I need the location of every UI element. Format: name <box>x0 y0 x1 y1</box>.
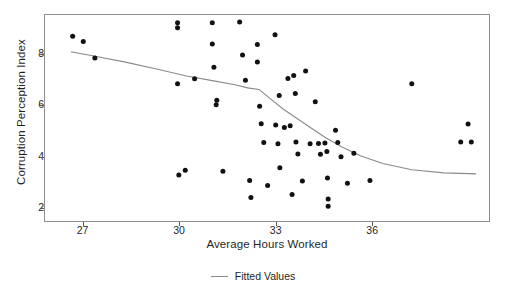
scatter-point <box>295 152 300 157</box>
x-tick-mark <box>372 222 373 226</box>
scatter-point <box>81 39 86 44</box>
scatter-point <box>313 99 318 104</box>
scatter-point <box>175 25 180 30</box>
scatter-point <box>469 139 474 144</box>
x-tick-mark <box>83 222 84 226</box>
scatter-point <box>257 104 262 109</box>
scatter-point <box>322 140 327 145</box>
scatter-point <box>261 140 266 145</box>
scatter-point <box>409 81 414 86</box>
scatter-point <box>277 165 282 170</box>
scatter-points-group <box>70 19 474 208</box>
scatter-point <box>248 195 253 200</box>
scatter-point <box>255 60 260 65</box>
scatter-point <box>70 34 75 39</box>
scatter-point <box>259 121 264 126</box>
scatter-point <box>351 151 356 156</box>
scatter-point <box>326 197 331 202</box>
scatter-point <box>290 192 295 197</box>
fitted-values-line <box>71 52 476 174</box>
chart-legend: Fitted Values <box>0 270 506 282</box>
scatter-point <box>326 204 331 209</box>
scatter-point <box>243 78 248 83</box>
scatter-point <box>339 154 344 159</box>
scatter-point <box>308 141 313 146</box>
scatter-point <box>458 139 463 144</box>
x-tick-mark <box>276 222 277 226</box>
fitted-values-legend-line-icon <box>211 276 228 277</box>
scatter-point <box>367 178 372 183</box>
plot-canvas <box>45 15 489 221</box>
scatter-point <box>210 20 215 25</box>
scatter-point <box>345 181 350 186</box>
scatter-point <box>333 128 338 133</box>
scatter-point <box>285 76 290 81</box>
scatter-point <box>273 122 278 127</box>
scatter-point <box>192 76 197 81</box>
y-tick-label: 8 <box>18 47 44 59</box>
scatter-point <box>214 98 219 103</box>
scatter-point <box>247 178 252 183</box>
scatter-point <box>176 172 181 177</box>
x-axis-title: Average Hours Worked <box>44 238 490 250</box>
scatter-point <box>300 179 305 184</box>
scatter-point <box>265 183 270 188</box>
x-tick-mark <box>179 222 180 226</box>
scatter-point <box>175 81 180 86</box>
scatter-point <box>175 20 180 25</box>
scatter-point <box>293 91 298 96</box>
scatter-point <box>273 32 278 37</box>
scatter-point <box>316 141 321 146</box>
scatter-point <box>335 140 340 145</box>
scatter-point <box>211 65 216 70</box>
plot-area <box>44 14 490 222</box>
scatter-point <box>183 168 188 173</box>
legend-item-label: Fitted Values <box>235 270 296 282</box>
scatter-point <box>277 93 282 98</box>
scatter-point <box>282 125 287 130</box>
y-axis-ticks: 2468 <box>0 0 44 230</box>
scatter-point <box>240 52 245 57</box>
scatter-point <box>291 73 296 78</box>
scatter-point <box>214 102 219 107</box>
chart-figure: Corruption Perception Index 2468 2730333… <box>0 0 506 298</box>
y-tick-label: 2 <box>18 201 44 213</box>
scatter-point <box>293 139 298 144</box>
scatter-point <box>255 42 260 47</box>
scatter-point <box>318 152 323 157</box>
scatter-point <box>466 121 471 126</box>
scatter-point <box>303 68 308 73</box>
y-tick-label: 6 <box>18 98 44 110</box>
scatter-point <box>288 123 293 128</box>
y-tick-label: 4 <box>18 150 44 162</box>
scatter-point <box>92 56 97 61</box>
scatter-point <box>237 19 242 24</box>
scatter-point <box>275 141 280 146</box>
scatter-point <box>220 169 225 174</box>
scatter-point <box>324 149 329 154</box>
scatter-point <box>325 176 330 181</box>
scatter-point <box>210 42 215 47</box>
